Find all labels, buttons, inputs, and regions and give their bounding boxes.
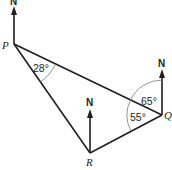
- north-label-r: N: [86, 97, 93, 108]
- arrowhead-icon: [159, 69, 165, 78]
- angle-label-p: 28°: [33, 62, 49, 74]
- angle-label-q-65: 65°: [141, 95, 157, 107]
- arrowhead-icon: [11, 6, 17, 15]
- side-pr: [14, 44, 90, 153]
- angle-label-q-55: 55°: [130, 111, 146, 123]
- north-arrow-r: N: [86, 97, 93, 153]
- point-label-p: P: [1, 39, 9, 51]
- north-arrow-q: N: [158, 58, 165, 115]
- bearing-diagram: N N N 28° 65° 55° P Q R: [0, 0, 172, 170]
- north-label-q: N: [158, 58, 165, 69]
- arrowhead-icon: [87, 109, 93, 118]
- point-label-r: R: [85, 156, 93, 168]
- north-arrow-p: N: [10, 0, 17, 44]
- side-rq: [90, 115, 162, 153]
- point-label-q: Q: [164, 109, 172, 121]
- north-label-p: N: [10, 0, 17, 7]
